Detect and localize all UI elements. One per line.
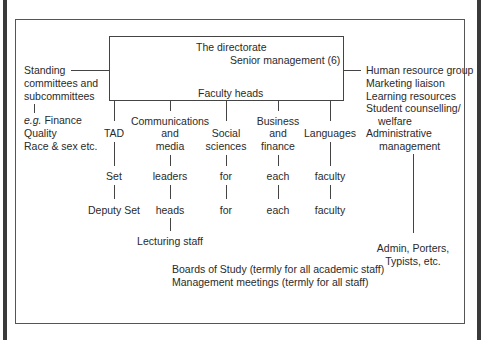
faculty-communications-line-1: Communications [130,115,210,128]
business-connector-top [278,101,279,111]
support-management: management [379,140,440,153]
tad-level-2: Deputy Set [84,204,144,217]
management-meetings: Management meetings (termly for all staf… [172,276,368,289]
social-connector-top [226,101,227,121]
faculty-social-line-1: Social [196,127,256,140]
example-race-sex: Race & sex etc. [24,140,98,153]
support-human-resource: Human resource group [366,64,473,77]
social-connector-1 [226,155,227,166]
comm-level-3: Lecturing staff [130,235,210,248]
business-level-1: each [258,170,298,183]
comm-connector-3 [170,218,171,231]
faculty-tad: TAD [94,127,134,140]
faculty-social-line-2: sciences [196,140,256,153]
social-level-2: for [206,204,246,217]
languages-level-2: faculty [305,204,355,217]
languages-connector-top [330,101,331,121]
languages-connector-2 [330,185,331,199]
comm-connector-1 [170,155,171,166]
committees-examples-connector [34,104,35,113]
support-learning: Learning resources [366,90,456,103]
languages-level-1: faculty [305,170,355,183]
admin-connector-line [413,154,414,233]
social-connector-2 [226,185,227,199]
comm-level-2: heads [140,204,200,217]
social-level-1: for [206,170,246,183]
business-level-2: each [258,204,298,217]
faculty-heads: Faculty heads [198,87,263,100]
tad-connector-top [114,101,115,121]
tad-connector-2 [114,185,115,199]
support-student-counselling: Student counselling/ [366,102,461,115]
standing-connector-line [71,70,109,71]
faculty-languages: Languages [300,127,360,140]
faculty-business-line-3: finance [248,140,308,153]
eg-prefix: e.g. [24,114,42,126]
support-administrative: Administrative [366,127,432,140]
senior-management: Senior management (6) [230,54,340,67]
business-connector-1 [278,155,279,166]
standing-committees-line-2: committees and [24,77,98,90]
left-border-bar [3,0,7,340]
comm-connector-2 [170,185,171,199]
example-finance: Finance [44,114,81,126]
standing-committees-line-3: subcommittees [24,90,95,103]
tad-level-1: Set [94,170,134,183]
faculty-business-line-1: Business [248,115,308,128]
boards-of-study: Boards of Study (termly for all academic… [172,263,384,276]
support-marketing: Marketing liaison [366,77,445,90]
admin-staff-line-1: Admin, Porters, [366,242,460,255]
comm-connector-top [170,101,171,111]
business-connector-2 [278,185,279,199]
examples-line-1: e.g. Finance [24,114,82,127]
languages-connector-1 [330,142,331,166]
directorate-title: The directorate [196,41,267,54]
faculty-business-line-2: and [248,127,308,140]
comm-level-1: leaders [140,170,200,183]
tad-connector-1 [114,142,115,166]
standing-committees-line-1: Standing [24,64,65,77]
right-border-bar [477,0,481,340]
support-connector-line [344,70,361,71]
example-quality: Quality [24,127,57,140]
support-welfare: welfare [378,115,412,128]
